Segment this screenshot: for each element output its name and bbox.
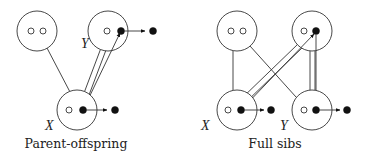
allele-open-icon: [225, 107, 231, 113]
allele-open-icon: [104, 28, 110, 34]
allele-filled-icon: [268, 107, 275, 114]
edge-parent1-to-child: [47, 48, 70, 92]
ibd-diagram: Y X Parent-offspring: [0, 0, 370, 160]
label-x: X: [200, 118, 210, 133]
caption-full-sibs: Full sibs: [248, 136, 302, 151]
ibd-double-line-b: [244, 48, 302, 104]
allele-filled-icon: [150, 28, 157, 35]
allele-filled-icon: [313, 28, 320, 35]
allele-filled-icon: [112, 107, 119, 114]
allele-filled-icon: [80, 107, 87, 114]
allele-open-icon: [40, 28, 46, 34]
allele-open-icon: [301, 28, 307, 34]
allele-filled-icon: [313, 107, 320, 114]
allele-open-icon: [240, 28, 246, 34]
allele-filled-icon: [344, 107, 351, 114]
allele-open-icon: [66, 107, 72, 113]
caption-parent-offspring: Parent-offspring: [25, 136, 128, 151]
allele-open-icon: [28, 28, 34, 34]
edge-parent1-to-sib-y: [250, 46, 296, 97]
panel-parent-offspring: Y X Parent-offspring: [17, 11, 157, 151]
allele-open-icon: [301, 107, 307, 113]
label-x: X: [44, 118, 54, 133]
individual-parent-2: [292, 11, 332, 51]
allele-filled-icon: [118, 28, 125, 35]
label-y: Y: [280, 118, 290, 133]
ibd-double-line-a: [240, 44, 298, 100]
allele-open-icon: [228, 28, 234, 34]
individual-parent-1: [17, 11, 57, 51]
allele-filled-icon: [238, 107, 245, 114]
panel-full-sibs: X Y Full sibs: [200, 11, 351, 151]
individual-parent-1: [217, 11, 257, 51]
